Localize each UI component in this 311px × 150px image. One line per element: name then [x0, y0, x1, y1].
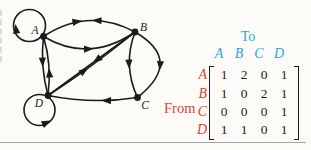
cell-b-b: 0	[234, 84, 254, 102]
col-header-c: C	[249, 46, 269, 62]
cell-b-c: 2	[254, 84, 274, 102]
col-header-b: B	[229, 46, 249, 62]
cell-d-c: 0	[254, 121, 274, 139]
cell-d-d: 1	[274, 121, 294, 139]
from-label: From	[164, 100, 195, 117]
arrowhead-b-to-c-left	[125, 59, 133, 69]
node-a-label: A	[30, 24, 39, 36]
node-c-label: C	[141, 99, 149, 111]
cell-a-d: 1	[274, 66, 294, 84]
cell-c-d: 1	[274, 103, 294, 121]
cell-c-a: 0	[214, 103, 234, 121]
cell-a-b: 2	[234, 66, 254, 84]
arrowhead-b-to-c-right	[156, 61, 164, 71]
cell-d-a: 1	[214, 121, 234, 139]
matrix-values: 1 2 0 1 1 0 2 1 0 0 0 1 1 1 0 1	[214, 66, 294, 140]
arrowhead-a-to-d	[39, 57, 47, 67]
figure-digraph-adjacency: A B C D To A B C D From A B C D 1 2 0	[0, 0, 311, 150]
node-c	[134, 94, 141, 101]
node-b-label: B	[140, 21, 147, 33]
cell-c-c: 0	[254, 103, 274, 121]
matrix-body: From A B C D 1 2 0 1 1 0 2 1 0 0 0 1	[164, 66, 310, 140]
matrix-column-headers: A B C D	[209, 46, 310, 62]
adjacency-matrix: To A B C D From A B C D 1 2 0 1 1 0	[164, 30, 310, 140]
col-header-d: D	[269, 46, 289, 62]
edge-a-b-lower	[44, 32, 136, 49]
row-header-a: A	[164, 66, 209, 84]
arrowhead-b-to-a	[92, 17, 102, 25]
cell-a-c: 0	[254, 66, 274, 84]
col-header-a: A	[209, 46, 229, 62]
digraph-drawing: A B C D	[0, 0, 170, 150]
row-header-d: D	[164, 121, 209, 139]
arrowhead-d-to-a	[45, 68, 53, 78]
cell-a-a: 1	[214, 66, 234, 84]
arrowhead-d-loop	[41, 117, 53, 128]
cell-b-d: 1	[274, 84, 294, 102]
node-b	[132, 29, 139, 36]
bottom-divider-rule	[0, 142, 306, 143]
node-d	[45, 92, 52, 99]
node-d-label: D	[34, 97, 44, 109]
cell-d-b: 1	[234, 121, 254, 139]
node-a	[40, 33, 47, 40]
arrowhead-c-to-d	[101, 97, 111, 104]
cell-b-a: 1	[214, 84, 234, 102]
cell-c-b: 0	[234, 103, 254, 121]
edge-b-c-right	[135, 32, 160, 98]
edge-a-b-upper	[44, 21, 136, 37]
arrowhead-a-to-b-lower	[84, 45, 94, 53]
edge-c-d	[48, 96, 138, 101]
matrix-right-bracket	[294, 66, 299, 140]
to-label: To	[206, 30, 290, 44]
